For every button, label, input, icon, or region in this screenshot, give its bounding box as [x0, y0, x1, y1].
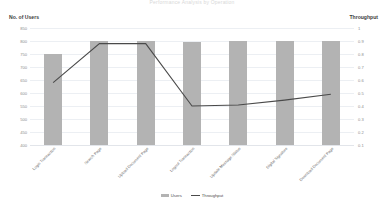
y2-axis-tick-label: 0.6 — [358, 78, 364, 83]
throughput-line-series — [30, 28, 354, 145]
y-axis-tick-label: 750 — [20, 52, 27, 57]
y2-axis-tick-label: 0.2 — [358, 130, 364, 135]
y-axis-tick-label: 600 — [20, 91, 27, 96]
y-axis-tick-label: 500 — [20, 117, 27, 122]
bar-swatch-icon — [161, 194, 169, 198]
y-axis-tick-label: 850 — [20, 26, 27, 31]
y-axis-tick-label: 400 — [20, 143, 27, 148]
legend-item-throughput: Throughput — [191, 193, 223, 198]
legend-label-users: Users — [171, 193, 182, 198]
legend-label-throughput: Throughput — [202, 193, 223, 198]
combo-chart: Performance Analysis by Operation No. of… — [0, 0, 384, 202]
y2-axis-tick-label: 0.7 — [358, 65, 364, 70]
y2-axis-tick-label: 0.4 — [358, 104, 364, 109]
y2-axis-tick-label: 1 — [358, 26, 360, 31]
chart-legend: Users Throughput — [0, 193, 384, 198]
x-axis-labels: Login TransactionSearch PageUpload Docum… — [30, 146, 354, 192]
y2-axis-tick-label: 0.5 — [358, 91, 364, 96]
y-axis-tick-label: 800 — [20, 39, 27, 44]
left-axis-title: No. of Users — [9, 14, 39, 20]
y2-axis-tick-label: 0.3 — [358, 117, 364, 122]
y-axis-tick-label: 650 — [20, 78, 27, 83]
legend-item-users: Users — [161, 193, 182, 198]
y-axis-tick-label: 700 — [20, 65, 27, 70]
y-axis-tick-label: 450 — [20, 130, 27, 135]
y2-axis-tick-label: 0.1 — [358, 143, 364, 148]
y2-axis-tick-label: 0.8 — [358, 52, 364, 57]
right-axis-title: Throughput — [349, 14, 378, 20]
line-swatch-icon — [191, 195, 200, 196]
plot-area: 85080075070065060055050045040010.90.80.7… — [30, 28, 354, 145]
y2-axis-tick-label: 0.9 — [358, 39, 364, 44]
y-axis-tick-label: 550 — [20, 104, 27, 109]
chart-title: Performance Analysis by Operation — [0, 0, 384, 9]
throughput-line — [53, 44, 331, 106]
